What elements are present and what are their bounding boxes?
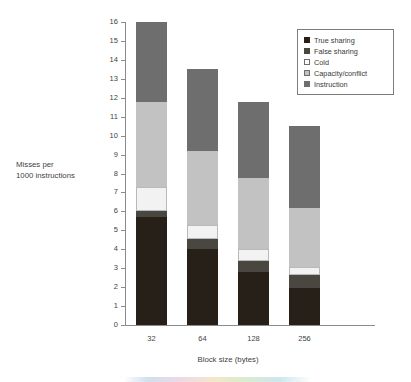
- x-axis-tick-label-256: 256: [285, 334, 325, 343]
- bar-segment-cold: [289, 267, 320, 275]
- bar-segment-cold: [238, 249, 269, 260]
- bar-segment-capacity-conflict: [187, 151, 218, 225]
- x-axis-tick-label-64: 64: [183, 334, 223, 343]
- legend-item: False sharing: [304, 46, 388, 56]
- bar-segment-false-sharing: [289, 275, 320, 288]
- y-axis-tick: [121, 22, 125, 23]
- legend-item: Instruction: [304, 79, 388, 89]
- bar-segment-cold: [136, 187, 167, 212]
- chart-figure: 012345678910111213141516 Misses per 1000…: [0, 0, 411, 382]
- y-axis-tick-label: 10: [94, 132, 118, 140]
- y-axis-tick: [121, 211, 125, 212]
- y-axis-tick-label: 9: [94, 151, 118, 159]
- bar-segment-instruction: [289, 126, 320, 207]
- bar-segment-instruction: [238, 102, 269, 179]
- bar-segment-capacity-conflict: [136, 102, 167, 187]
- bar-segment-cold: [187, 225, 218, 239]
- y-axis-tick: [121, 136, 125, 137]
- y-axis-tick: [121, 230, 125, 231]
- bar-128: [238, 102, 269, 325]
- bar-segment-capacity-conflict: [289, 208, 320, 268]
- y-axis-tick: [121, 174, 125, 175]
- x-axis-line: [125, 325, 375, 326]
- legend-item-label: False sharing: [314, 47, 358, 56]
- legend-swatch-icon: [304, 48, 310, 54]
- legend-swatch-icon: [304, 37, 310, 43]
- y-axis-tick: [121, 79, 125, 80]
- bar-256: [289, 126, 320, 325]
- bar-segment-true-sharing: [136, 217, 167, 325]
- y-axis-tick: [121, 306, 125, 307]
- bar-segment-capacity-conflict: [238, 178, 269, 249]
- y-axis-tick-label: 16: [94, 18, 118, 26]
- y-axis-tick: [121, 249, 125, 250]
- legend-item-label: Instruction: [314, 80, 348, 89]
- legend-swatch-icon: [304, 59, 310, 65]
- y-axis-tick: [121, 117, 125, 118]
- y-axis-tick-label: 15: [94, 37, 118, 45]
- y-axis-tick: [121, 98, 125, 99]
- y-axis-tick-labels: 012345678910111213141516: [92, 0, 118, 382]
- legend-item: Capacity/conflict: [304, 68, 388, 78]
- bar-segment-true-sharing: [238, 272, 269, 325]
- bar-segment-true-sharing: [289, 288, 320, 325]
- bar-segment-false-sharing: [238, 261, 269, 272]
- bar-32: [136, 22, 167, 325]
- y-axis-tick-label: 6: [94, 207, 118, 215]
- y-axis-title-line-2: 1000 instructions: [16, 170, 102, 181]
- y-axis-tick: [121, 325, 125, 326]
- y-axis-tick-label: 5: [94, 226, 118, 234]
- x-axis-tick-label-128: 128: [234, 334, 274, 343]
- y-axis-tick-label: 0: [94, 321, 118, 329]
- legend-item-label: True sharing: [314, 36, 355, 45]
- y-axis-tick-label: 12: [94, 94, 118, 102]
- y-axis-title-line-1: Misses per: [16, 159, 102, 170]
- legend-item: True sharing: [304, 35, 388, 45]
- legend-item: Cold: [304, 57, 388, 67]
- legend-swatch-icon: [304, 70, 310, 76]
- legend-swatch-icon: [304, 81, 310, 87]
- y-axis-tick-label: 13: [94, 75, 118, 83]
- y-axis-tick-label: 3: [94, 264, 118, 272]
- chart-legend: True sharingFalse sharingColdCapacity/co…: [297, 29, 394, 95]
- y-axis-tick: [121, 155, 125, 156]
- y-axis-tick-label: 11: [94, 113, 118, 121]
- y-axis-tick: [121, 41, 125, 42]
- y-axis-tick: [121, 268, 125, 269]
- y-axis-tick: [121, 192, 125, 193]
- x-axis-title: Block size (bytes): [126, 355, 330, 365]
- legend-item-label: Cold: [314, 58, 329, 67]
- bar-64: [187, 69, 218, 325]
- bottom-color-strip: [0, 377, 411, 382]
- bar-segment-instruction: [187, 69, 218, 150]
- bar-segment-false-sharing: [187, 239, 218, 249]
- y-axis-tick: [121, 60, 125, 61]
- bar-segment-instruction: [136, 22, 167, 102]
- y-axis-tick: [121, 287, 125, 288]
- y-axis-tick-label: 14: [94, 56, 118, 64]
- y-axis-title: Misses per 1000 instructions: [16, 159, 102, 181]
- y-axis-tick-label: 2: [94, 283, 118, 291]
- bar-segment-true-sharing: [187, 249, 218, 325]
- y-axis-tick-label: 1: [94, 302, 118, 310]
- y-axis-tick-label: 4: [94, 245, 118, 253]
- x-axis-tick-label-32: 32: [132, 334, 172, 343]
- legend-item-label: Capacity/conflict: [314, 69, 367, 78]
- y-axis-tick-label: 7: [94, 188, 118, 196]
